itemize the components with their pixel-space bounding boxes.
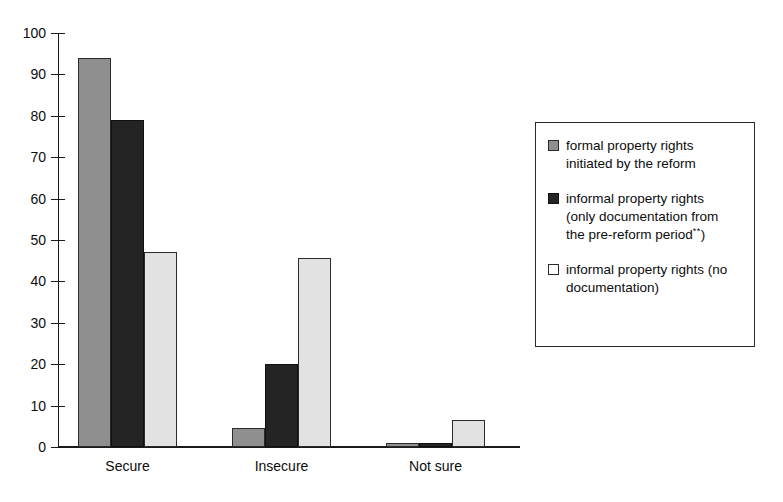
legend-swatch-black-filled-square [548, 193, 559, 204]
legend-label-1-line1: formal property rights [566, 138, 694, 153]
x-label-insecure: Insecure [202, 458, 361, 474]
x-label-secure: Secure [48, 458, 207, 474]
y-tick-label-70: 70 [4, 150, 46, 164]
bar-insecure-series-3 [298, 258, 331, 447]
y-tick-label-60: 60 [4, 192, 46, 206]
y-tick-0 [51, 447, 65, 448]
y-tick-label-0: 0 [4, 440, 46, 454]
x-label-not-sure: Not sure [356, 458, 515, 474]
bar-chart: 0102030405060708090100 SecureInsecureNot… [0, 0, 783, 502]
bar-not-sure-series-3 [452, 420, 485, 447]
legend-entry-informal-no-documentation: informal property rights (no documentati… [548, 261, 744, 297]
bar-secure-series-1 [78, 58, 111, 447]
bar-insecure-series-1 [232, 428, 265, 447]
bar-secure-series-2 [111, 120, 144, 447]
y-tick-label-40: 40 [4, 274, 46, 288]
legend-label-2-footnote-marker: ** [693, 226, 701, 236]
legend-label-2: informal property rights (only documenta… [566, 190, 718, 244]
y-tick-label-80: 80 [4, 109, 46, 123]
legend-label-2-line3: the pre-reform period [566, 227, 693, 242]
legend-label-2-line3-tail: ) [701, 227, 706, 242]
y-tick-label-90: 90 [4, 67, 46, 81]
legend-entry-formal-property-rights: formal property rights initiated by the … [548, 137, 744, 173]
bar-not-sure-series-1 [386, 443, 419, 447]
legend: formal property rights initiated by the … [535, 122, 755, 347]
bar-secure-series-3 [144, 252, 177, 447]
y-tick-label-50: 50 [4, 233, 46, 247]
bar-insecure-series-2 [265, 364, 298, 447]
y-tick-label-10: 10 [4, 399, 46, 413]
y-tick-label-30: 30 [4, 316, 46, 330]
legend-label-1-line2: initiated by the reform [566, 156, 696, 171]
legend-swatch-white-filled-square [548, 264, 559, 275]
legend-label-2-line1: informal property rights [566, 191, 704, 206]
y-tick-label-20: 20 [4, 357, 46, 371]
legend-label-3: informal property rights (no documentati… [566, 261, 727, 297]
bar-not-sure-series-2 [419, 443, 452, 447]
legend-label-3-line1: informal property rights (no [566, 262, 727, 277]
legend-label-3-line2: documentation) [566, 280, 659, 295]
legend-label-2-line2: (only documentation from [566, 209, 718, 224]
legend-entry-informal-with-documentation: informal property rights (only documenta… [548, 190, 744, 244]
bars-layer [58, 33, 520, 447]
y-tick-label-100: 100 [4, 26, 46, 40]
legend-label-1: formal property rights initiated by the … [566, 137, 696, 173]
legend-swatch-gray-filled-square [548, 140, 559, 151]
